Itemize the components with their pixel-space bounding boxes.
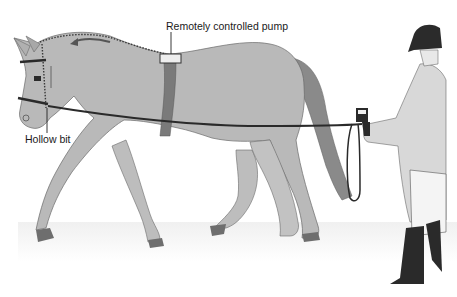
bit-label: Hollow bit [25,133,71,145]
pump-box [160,54,181,63]
handler-glove [362,122,370,136]
handler-boots [390,226,424,284]
diagram-canvas: Remotely controlled pump Hollow bit [0,0,457,297]
horse-far-fore-leg [112,140,160,242]
hoof [210,224,226,236]
pump-label: Remotely controlled pump [166,20,288,32]
hoof [36,228,54,242]
handler-helmet [408,25,442,52]
horse-eye [34,76,41,81]
remote-screen [358,110,366,114]
handler-boot-back [426,220,442,272]
horse-far-hind-leg [214,150,258,228]
horse-illustration [0,0,457,297]
lunge-coil [347,124,360,201]
